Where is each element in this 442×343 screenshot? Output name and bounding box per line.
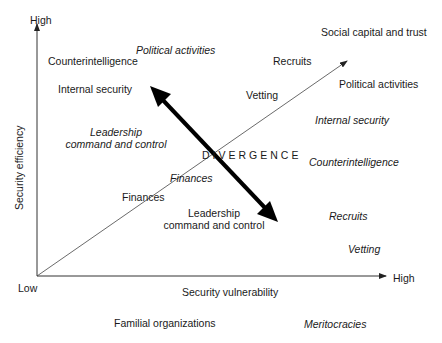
origin-low-label: Low: [18, 282, 37, 294]
label-leadership: Leadership command and control: [156, 207, 272, 231]
y-axis-high-label: High: [30, 14, 52, 26]
label-recruits-italic: Recruits: [329, 210, 368, 222]
label-finances-italic: Finances: [170, 172, 213, 184]
divergence-label: DIVERGENCE: [202, 149, 301, 161]
label-recruits: Recruits: [273, 55, 312, 67]
meritocracies-title: Meritocracies: [304, 318, 366, 330]
label-internal-security: Internal security: [58, 83, 132, 95]
label-finances: Finances: [122, 191, 165, 203]
label-counterintelligence: Counterintelligence: [48, 55, 138, 67]
x-axis-label: Security vulnerability: [182, 286, 278, 298]
label-internal-security-italic: Internal security: [315, 114, 389, 126]
y-axis-label: Security efficiency: [13, 126, 25, 210]
label-political-activities-italic: Political activities: [136, 44, 215, 56]
x-axis-high-label: High: [393, 272, 415, 284]
label-leadership-italic: Leadership command and control: [60, 126, 172, 150]
label-leadership-italic-line2: command and control: [60, 138, 172, 150]
label-vetting: Vetting: [246, 89, 278, 101]
label-leadership-line2: command and control: [156, 219, 272, 231]
label-leadership-line1: Leadership: [156, 207, 272, 219]
familial-organizations-title: Familial organizations: [114, 317, 216, 329]
diagonal-label: Social capital and trust: [321, 26, 427, 38]
label-vetting-italic: Vetting: [348, 243, 380, 255]
label-counterintelligence-italic: Counterintelligence: [309, 156, 399, 168]
label-leadership-italic-line1: Leadership: [60, 126, 172, 138]
label-political-activities: Political activities: [339, 78, 418, 90]
